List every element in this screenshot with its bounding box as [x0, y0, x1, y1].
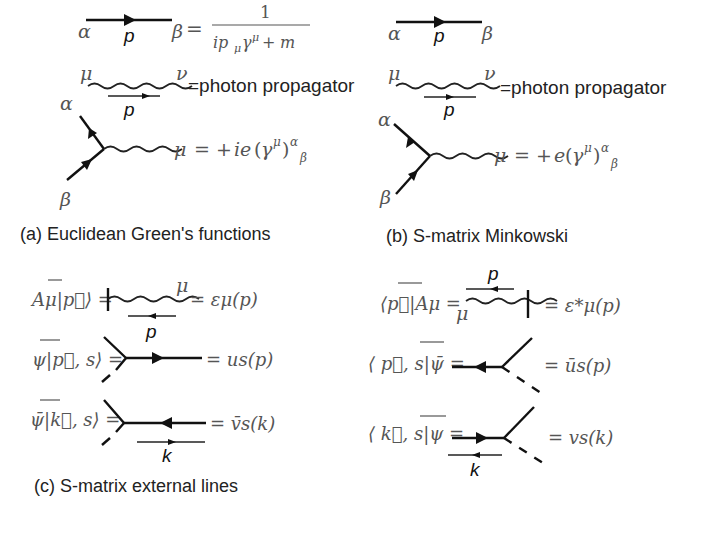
svg-text:μ: μ [273, 135, 281, 149]
label-momentum: k [470, 459, 481, 480]
svg-text:): ) [282, 138, 289, 160]
rhs-vbar-s: = v̄s(k) [210, 413, 275, 434]
lhs-psibar-k-s: ψ̄|k⃗, s⟩ = [30, 409, 120, 431]
label-beta: β [59, 188, 71, 210]
svg-text:γ: γ [261, 138, 273, 160]
svg-text:μ: μ [174, 138, 186, 160]
panel-a: α p β = 1 ip μ γ μ + m μ ν p =photon pro… [20, 2, 355, 244]
photon-wave [104, 147, 182, 152]
dash-stub [102, 438, 110, 445]
arrow-icon [142, 93, 150, 99]
svg-text:e: e [554, 144, 565, 166]
svg-text:= +: = + [194, 138, 232, 160]
svg-text:β: β [299, 151, 307, 165]
photon-wave [396, 84, 500, 89]
label-alpha: α [388, 22, 401, 44]
panel-c-right: ⟨p⃗|Aμ = μ = ε*μ(p) p ⟨ p⃗, s|ψ̄ = = ūs(… [368, 263, 621, 480]
svg-text:β: β [610, 157, 618, 171]
label-mu: μ [388, 62, 400, 84]
arrow-icon [476, 432, 488, 444]
lhs-A-mu-p: Aμ|p⃗⟩ = [30, 289, 113, 311]
equals-sign: = [186, 17, 203, 41]
lhs-k-s-psi: ⟨ k⃗, s|ψ = [368, 423, 464, 445]
caption-b: (b) S-matrix Minkowski [386, 226, 568, 246]
label-mu: μ [80, 62, 92, 84]
arrow-icon [490, 286, 498, 292]
lhs-p-s-psibar: ⟨ p⃗, s|ψ̄ = [368, 353, 465, 375]
photon-wave [108, 297, 199, 302]
label-momentum: p [123, 25, 135, 46]
lhs-p-A-mu: ⟨p⃗|Aμ = [380, 293, 461, 315]
panel-c-left: Aμ|p⃗⟩ = μ = εμ(p) p ψ|p⃗, s⟩ = = us(p) … [30, 274, 275, 496]
panel-b: α p β μ ν p =photon propagator α β μ = +… [378, 16, 667, 246]
label-momentum: p [145, 321, 157, 342]
svg-text:γ: γ [572, 144, 584, 166]
svg-text:ip: ip [213, 33, 228, 52]
label-alpha: α [378, 108, 391, 130]
label-alpha: α [78, 20, 91, 42]
svg-text:μ: μ [494, 144, 506, 166]
caption-c: (c) S-matrix external lines [34, 476, 238, 496]
rhs-epsilon: = εμ(p) [190, 289, 258, 310]
svg-text:+: + [262, 33, 275, 52]
label-alpha: α [60, 92, 73, 114]
svg-text:μ: μ [584, 141, 592, 155]
label-momentum: k [162, 445, 173, 466]
label-nu: ν [176, 62, 188, 84]
svg-text:= +: = + [514, 144, 552, 166]
svg-text:μ: μ [252, 31, 259, 44]
svg-text:μ: μ [234, 42, 241, 55]
svg-text:): ) [593, 144, 600, 166]
external-leg [504, 407, 534, 438]
label-momentum: p [487, 263, 499, 284]
lhs-psi-p-s: ψ|p⃗, s⟩ = [32, 349, 123, 371]
label-mu: μ [456, 302, 468, 324]
external-leg-dashed [504, 438, 546, 465]
arrow-icon [148, 313, 156, 319]
label-momentum: p [433, 25, 445, 46]
arrow-icon [472, 452, 480, 458]
feynman-rules-figure: α p β = 1 ip μ γ μ + m μ ν p =photon pro… [0, 0, 708, 534]
photon-wave [88, 84, 192, 89]
fraction-denominator: ip μ γ μ + m [213, 31, 295, 55]
label-momentum: p [443, 99, 455, 120]
arrow-icon [152, 352, 164, 364]
vertex-factor-b: μ = + e ( γ μ ) α β [494, 141, 618, 171]
photon-propagator-label: =photon propagator [500, 77, 667, 98]
rhs-ubar-s: = ūs(p) [544, 355, 611, 376]
label-beta: β [379, 186, 391, 208]
rhs-epsilon-star: = ε*μ(p) [544, 295, 621, 316]
rhs-u-s: = us(p) [206, 349, 273, 370]
dash-stub [102, 375, 110, 382]
svg-text:γ: γ [242, 33, 252, 52]
label-mu: μ [176, 274, 188, 296]
label-momentum: p [123, 99, 135, 120]
label-beta: β [171, 20, 183, 42]
external-leg [502, 338, 532, 367]
svg-text:α: α [290, 135, 298, 149]
svg-text:ie: ie [234, 138, 251, 160]
label-beta: β [481, 22, 493, 44]
photon-propagator-label: =photon propagator [188, 75, 355, 96]
external-leg-dashed [502, 367, 544, 395]
fraction-numerator: 1 [260, 2, 271, 22]
arrow-icon [474, 361, 486, 373]
vertex-factor-a: μ = + ie ( γ μ ) α β [174, 135, 307, 165]
svg-text:m: m [280, 33, 295, 52]
arrow-icon [160, 417, 172, 429]
label-nu: ν [484, 62, 496, 84]
rhs-v-s: = vs(k) [548, 427, 613, 448]
svg-text:α: α [601, 141, 609, 155]
caption-a: (a) Euclidean Green's functions [20, 224, 271, 244]
